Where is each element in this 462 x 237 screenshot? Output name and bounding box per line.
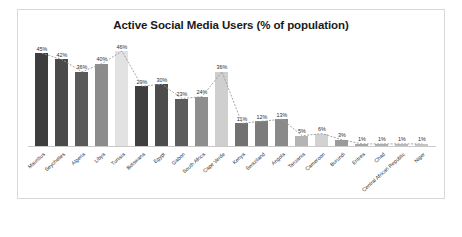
x-axis-labels: MauritiusSeychellesAlgeriaLibyaTunisiaBo… bbox=[32, 149, 432, 205]
bar bbox=[55, 59, 68, 146]
bar bbox=[35, 53, 48, 146]
bar-group: 45% bbox=[32, 43, 52, 146]
x-axis-label: Algeria bbox=[70, 151, 86, 166]
x-axis-label: Libya bbox=[93, 151, 106, 164]
bar bbox=[295, 136, 308, 146]
bar bbox=[215, 72, 228, 146]
x-axis-tick: Algeria bbox=[72, 149, 92, 205]
x-axis-label: Kenya bbox=[231, 151, 246, 165]
x-axis-tick: Kenya bbox=[232, 149, 252, 205]
x-axis-tick: Tunisia bbox=[112, 149, 132, 205]
bar-group: 3% bbox=[332, 43, 352, 146]
x-axis-tick: Swaziland bbox=[252, 149, 272, 205]
x-axis-tick: Eritrea bbox=[352, 149, 372, 205]
x-axis-tick: Central African Republic bbox=[392, 149, 412, 205]
x-axis-tick: Gabon bbox=[172, 149, 192, 205]
chart-title: Active Social Media Users (% of populati… bbox=[18, 19, 444, 31]
x-axis-label: Niger bbox=[413, 151, 426, 164]
bar-group: 24% bbox=[192, 43, 212, 146]
bar bbox=[175, 99, 188, 146]
x-axis-label: Tunisia bbox=[110, 151, 126, 167]
bar bbox=[195, 97, 208, 146]
x-axis-tick: Cameroon bbox=[312, 149, 332, 205]
bar bbox=[255, 121, 268, 146]
bar-group: 1% bbox=[392, 43, 412, 146]
x-axis-label: Egypt bbox=[152, 151, 166, 164]
bar-group: 29% bbox=[132, 43, 152, 146]
axis-baseline bbox=[28, 146, 436, 147]
bar-group: 1% bbox=[412, 43, 432, 146]
x-axis-tick: Tanzania bbox=[292, 149, 312, 205]
x-axis-tick: Cape Verde bbox=[212, 149, 232, 205]
bar-group: 6% bbox=[312, 43, 332, 146]
bar bbox=[75, 72, 88, 146]
x-axis-tick: Angola bbox=[272, 149, 292, 205]
x-axis-label: Angola bbox=[270, 151, 286, 166]
bar-value-label: 1% bbox=[405, 136, 439, 142]
bar bbox=[95, 64, 108, 146]
x-axis-label: Chad bbox=[373, 151, 386, 164]
x-axis-label: Burundi bbox=[329, 151, 346, 167]
x-axis-label: Eritrea bbox=[351, 151, 366, 166]
bar-group: 12% bbox=[252, 43, 272, 146]
bar-group: 11% bbox=[232, 43, 252, 146]
plot-area: 45%42%36%40%46%29%30%23%24%36%11%12%13%5… bbox=[32, 43, 432, 146]
x-axis-tick: Egypt bbox=[152, 149, 172, 205]
x-axis-tick: Botswana bbox=[132, 149, 152, 205]
bar-group: 46% bbox=[112, 43, 132, 146]
x-axis-tick: Seychelles bbox=[52, 149, 72, 205]
bar-group: 40% bbox=[92, 43, 112, 146]
bar-group: 1% bbox=[352, 43, 372, 146]
bar-group: 42% bbox=[52, 43, 72, 146]
x-axis-tick: Burundi bbox=[332, 149, 352, 205]
chart-frame: Active Social Media Users (% of populati… bbox=[17, 9, 445, 199]
bar-group: 36% bbox=[212, 43, 232, 146]
x-axis-label: Gabon bbox=[170, 151, 186, 166]
bar bbox=[235, 123, 248, 146]
bar-group: 1% bbox=[372, 43, 392, 146]
x-axis-tick: Mauritius bbox=[32, 149, 52, 205]
x-axis-tick: Libya bbox=[92, 149, 112, 205]
x-axis-tick: Niger bbox=[412, 149, 432, 205]
bar bbox=[135, 86, 148, 146]
x-axis-tick: South Africa bbox=[192, 149, 212, 205]
bar bbox=[115, 51, 128, 146]
